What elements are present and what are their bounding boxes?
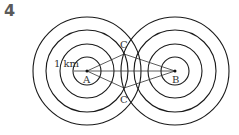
line-CB-top bbox=[124, 54, 175, 71]
concentric-circles-diagram: A B C C 1 km bbox=[0, 0, 239, 135]
point-A bbox=[86, 70, 89, 73]
line-CB-bottom bbox=[124, 71, 175, 88]
point-B bbox=[174, 70, 177, 73]
label-C-bottom: C bbox=[120, 94, 128, 105]
label-A: A bbox=[82, 74, 91, 85]
line-AC-bottom bbox=[87, 71, 124, 88]
line-AC-top bbox=[87, 54, 124, 71]
label-C-top: C bbox=[120, 39, 128, 50]
label-scale: 1 km bbox=[54, 58, 80, 69]
label-B: B bbox=[172, 74, 179, 85]
